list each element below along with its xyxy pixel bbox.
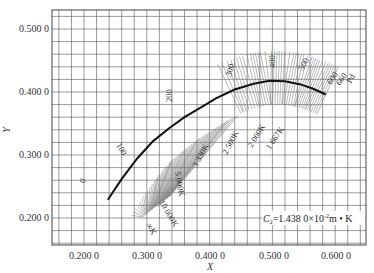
temp-label-10000k: 10 000K: [157, 198, 181, 229]
x-tick-label: 0.600 0: [321, 250, 351, 261]
temp-label-2500k: 2 500K: [220, 128, 241, 156]
index-label-300: 300: [223, 63, 236, 78]
x-tick-label: 0.200 0: [69, 250, 99, 261]
index-label-pd: Pd: [344, 72, 358, 85]
x-axis-label: X: [206, 261, 214, 272]
plot-frame: [52, 10, 366, 245]
grid: [52, 10, 366, 245]
y-tick-label: 0.400 0: [19, 86, 49, 97]
x-tick-label: 0.300 0: [132, 250, 162, 261]
temp-label-1667k: 1 667K: [263, 124, 286, 151]
x-tick-label: 0.500 0: [259, 250, 289, 261]
y-tick-label: 0.200 0: [19, 212, 49, 223]
y-axis-label: Y: [1, 126, 12, 133]
y-tick-label: 0.500 0: [19, 23, 49, 34]
index-label-0: 0: [77, 176, 88, 185]
index-label-400: 400: [267, 55, 277, 68]
constant-note: C2=1.438 0×10-2m • K: [263, 213, 353, 225]
index-label-100: 100: [114, 141, 129, 157]
y-tick-label: 0.300 0: [19, 149, 49, 160]
cie-chromaticity-chart: 0.200 0 0.300 0 0.400 0 0.500 0 0.600 0 …: [0, 0, 374, 273]
x-tick-label: 0.400 0: [195, 250, 225, 261]
index-label-200: 200: [164, 89, 174, 102]
